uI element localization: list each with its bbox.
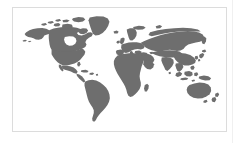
map-figure-frame	[12, 7, 227, 132]
page-margin-rule	[232, 0, 233, 143]
page-root	[0, 0, 238, 143]
world-map[interactable]	[19, 13, 220, 125]
world-map-svg	[19, 13, 220, 125]
region-japan-kyushu	[198, 59, 200, 61]
region-sri-lanka	[169, 72, 171, 74]
